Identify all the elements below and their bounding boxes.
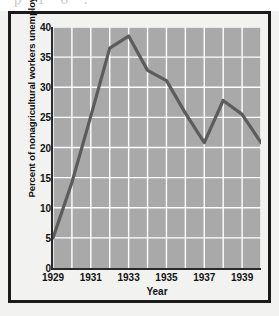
y-tick-label: 10: [27, 202, 51, 213]
page-bleed-strip: p 1 6 .: [0, 0, 279, 11]
x-tick-label: 1935: [155, 272, 177, 283]
x-tick-label: 1939: [231, 272, 253, 283]
x-axis-title: Year: [53, 286, 261, 297]
y-axis-tick-labels: 0510152025303540: [27, 14, 51, 306]
y-tick-label: 20: [27, 142, 51, 153]
x-tick-label: 1929: [42, 272, 64, 283]
y-tick-label: 40: [27, 22, 51, 33]
gridlines-horizontal: [53, 27, 261, 238]
page-canvas: p 1 6 . Percent of nonagricultural worke…: [0, 0, 279, 316]
y-tick-label: 5: [27, 232, 51, 243]
x-axis-tick-labels: 192919311933193519371939: [53, 272, 261, 286]
x-tick-label: 1931: [80, 272, 102, 283]
plot-area: [53, 27, 261, 268]
x-tick-label: 1937: [193, 272, 215, 283]
y-tick-label: 35: [27, 52, 51, 63]
x-axis-line: [53, 268, 261, 270]
chart-svg: [53, 27, 261, 268]
y-tick-label: 30: [27, 82, 51, 93]
y-tick-label: 25: [27, 112, 51, 123]
figure-frame: Percent of nonagricultural workers unemp…: [8, 11, 271, 303]
x-tick-label: 1933: [118, 272, 140, 283]
y-tick-label: 15: [27, 172, 51, 183]
